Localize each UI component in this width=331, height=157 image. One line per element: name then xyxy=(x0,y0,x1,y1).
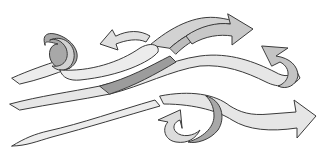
ribbon-top-right-arrow-icon xyxy=(150,14,253,54)
wind-arrows-illustration: Swirling ribbon arrows (wind / flow) xyxy=(0,0,331,157)
ribbon-arrows-graphic xyxy=(0,0,331,157)
ribbon-bottom-curl-arrow-icon xyxy=(158,110,200,142)
